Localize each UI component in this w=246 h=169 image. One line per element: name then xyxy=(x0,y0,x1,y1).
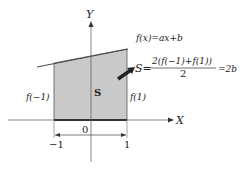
y-axis-label: Y xyxy=(86,8,95,21)
trapezoid-area-diagram: Y X 0 −1 1 f(x)=ax+b S f(−1) f(1) S= 2(f… xyxy=(0,0,246,169)
left-height-label: f(−1) xyxy=(25,92,50,102)
right-height-label: f(1) xyxy=(129,92,147,102)
origin-label: 0 xyxy=(82,124,88,135)
tick-right-label: 1 xyxy=(124,139,130,150)
x-axis-arrow-icon xyxy=(168,118,174,123)
right-dimension-arrow-icon xyxy=(121,133,126,137)
formula-rhs: =2b xyxy=(218,64,237,74)
shaded-region xyxy=(54,49,127,120)
function-label: f(x)=ax+b xyxy=(135,33,183,43)
formula-denominator: 2 xyxy=(180,68,186,79)
tick-left-label: −1 xyxy=(49,139,64,150)
x-axis-label: X xyxy=(175,114,185,127)
y-axis-arrow-icon xyxy=(89,21,94,27)
formula-numerator: 2(f(−1)+f(1)) xyxy=(151,56,212,66)
formula-lhs: S= xyxy=(135,62,152,75)
region-label: S xyxy=(94,87,101,98)
left-dimension-arrow-icon xyxy=(55,133,60,137)
